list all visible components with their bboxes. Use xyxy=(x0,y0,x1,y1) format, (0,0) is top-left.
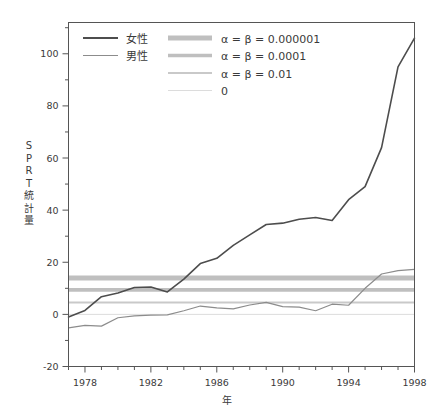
x-axis-tick-label: 1982 xyxy=(139,377,163,388)
x-axis-tick-label: 1994 xyxy=(337,377,361,388)
legend-layer: 女性男性α = β = 0.000001α = β = 0.0001α = β … xyxy=(83,32,320,99)
x-axis-title-text: 年 xyxy=(222,395,232,406)
y-axis-tick-label: 60 xyxy=(46,153,58,164)
y-axis-tick-label: -20 xyxy=(43,361,59,372)
y-axis-title-char: S xyxy=(18,140,40,153)
y-axis-title-char: R xyxy=(18,165,40,178)
y-axis-title: S P R T 統 計 量 xyxy=(18,140,40,228)
y-axis-tick-label: 20 xyxy=(46,257,58,268)
y-axis-title-char: 計 xyxy=(18,203,40,216)
x-axis-tick-label: 1978 xyxy=(73,377,97,388)
x-axis-title: 年 xyxy=(0,392,435,407)
chart-figure: S P R T 統 計 量 年 -20020406080100197819821… xyxy=(0,0,435,416)
y-axis-tick-label: 100 xyxy=(40,48,58,59)
x-axis-tick-label: 1986 xyxy=(205,377,229,388)
y-axis-title-char: 量 xyxy=(18,215,40,228)
threshold-bands-layer xyxy=(69,278,415,314)
plot-area: -20020406080100197819821986199019941998 … xyxy=(0,0,435,416)
data-series-layer xyxy=(69,38,415,328)
legend-series-label: 男性 xyxy=(126,49,148,63)
legend-threshold-label: α = β = 0.01 xyxy=(221,68,292,81)
legend-threshold-label: 0 xyxy=(221,85,228,98)
x-axis-tick-label: 1998 xyxy=(402,377,426,388)
y-axis-tick-label: 40 xyxy=(46,205,58,216)
legend-threshold-label: α = β = 0.000001 xyxy=(221,33,320,46)
y-axis-tick-label: 0 xyxy=(52,309,58,320)
y-axis-tick-label: 80 xyxy=(46,100,58,111)
y-axis-title-char: T xyxy=(18,178,40,191)
legend-threshold-label: α = β = 0.0001 xyxy=(221,50,306,63)
y-axis-title-char: 統 xyxy=(18,190,40,203)
legend-series-label: 女性 xyxy=(126,32,148,46)
y-axis-title-char: P xyxy=(18,153,40,166)
x-axis-tick-label: 1990 xyxy=(271,377,295,388)
